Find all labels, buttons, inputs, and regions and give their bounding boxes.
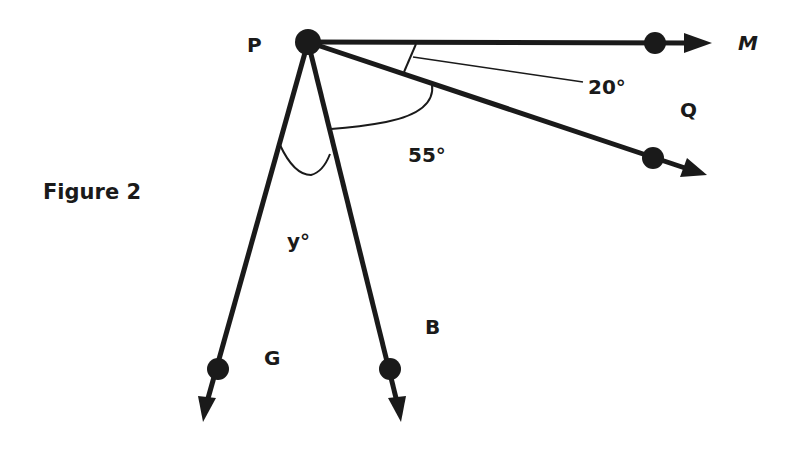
ray-PM xyxy=(308,32,712,54)
label-P: P xyxy=(247,33,262,57)
label-Q: Q xyxy=(680,98,697,122)
figure-title: Figure 2 xyxy=(43,180,141,204)
arc-angle-QPB xyxy=(331,84,432,129)
point-Q xyxy=(642,147,664,169)
ray-PQ xyxy=(308,42,707,177)
geometry-diagram: Figure 2 P M Q B G 20° 55° y° xyxy=(0,0,791,456)
label-B: B xyxy=(425,315,440,339)
arc-angle-BPG xyxy=(280,145,330,175)
point-B xyxy=(379,358,401,380)
arrowhead-Q-icon xyxy=(680,158,707,177)
arrowhead-M-icon xyxy=(684,33,712,53)
label-M: M xyxy=(738,31,758,55)
point-P xyxy=(295,29,321,55)
arc-angle-MPQ xyxy=(404,44,416,72)
point-M xyxy=(644,32,666,54)
leader-line-20 xyxy=(413,57,583,82)
label-angle-y: y° xyxy=(287,229,310,253)
label-angle-20: 20° xyxy=(588,75,626,99)
point-G xyxy=(207,358,229,380)
label-G: G xyxy=(264,346,280,370)
arrowhead-B-icon xyxy=(388,396,406,422)
label-angle-55: 55° xyxy=(408,143,446,167)
ray-PB xyxy=(308,42,406,422)
arrowhead-G-icon xyxy=(198,396,216,422)
